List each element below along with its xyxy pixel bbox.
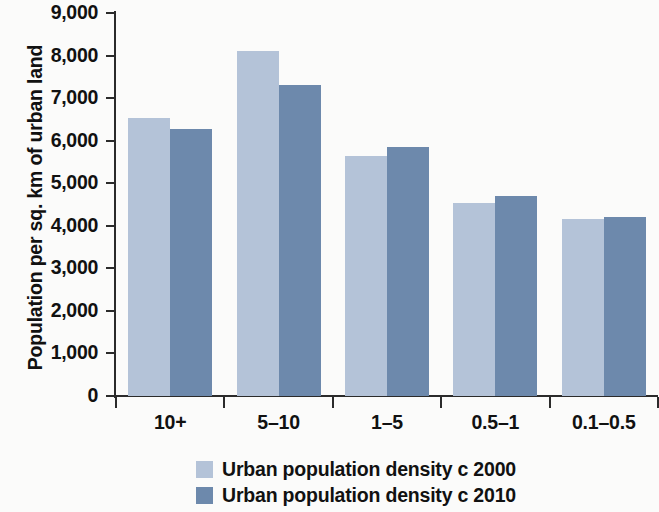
bar [387, 147, 429, 396]
bar [345, 156, 387, 396]
legend-item: Urban population density c 2000 [196, 456, 516, 482]
x-axis-tick [115, 397, 117, 408]
y-axis-tick: 5,000 [106, 182, 116, 184]
y-axis-tick: 3,000 [106, 267, 116, 269]
x-axis-category-label: 10+ [116, 411, 224, 434]
y-axis-tick-label: 7,000 [51, 86, 98, 109]
y-axis-tick: 6,000 [106, 140, 116, 142]
y-axis-tick-label: 9,000 [51, 1, 98, 24]
bar [562, 219, 604, 396]
y-axis-tick-label: 3,000 [51, 256, 98, 279]
x-axis-tick [332, 397, 334, 408]
legend-item-label: Urban population density c 2000 [222, 458, 516, 481]
x-axis-category-label: 0.1–0.5 [550, 411, 658, 434]
x-axis-tick [223, 397, 225, 408]
y-axis-tick: 4,000 [106, 225, 116, 227]
bar [279, 85, 321, 396]
y-axis-tick-label: 0 [87, 384, 98, 407]
bar [495, 196, 537, 396]
y-axis-tick: 9,000 [106, 12, 116, 14]
chart-legend: Urban population density c 2000Urban pop… [196, 456, 516, 508]
legend-item: Urban population density c 2010 [196, 482, 516, 508]
y-axis-tick-label: 1,000 [51, 341, 98, 364]
bar [237, 51, 279, 396]
bar [453, 203, 495, 396]
y-axis-tick-label: 5,000 [51, 171, 98, 194]
x-axis-category-label: 1–5 [333, 411, 441, 434]
x-axis-category-label: 5–10 [224, 411, 332, 434]
bar [604, 217, 646, 396]
legend-swatch-icon [196, 461, 213, 478]
x-axis-tick [549, 397, 551, 408]
y-axis-tick-label: 4,000 [51, 214, 98, 237]
bars-layer [116, 13, 658, 396]
y-axis-tick: 8,000 [106, 55, 116, 57]
x-axis-tick [440, 397, 442, 408]
bar [128, 118, 170, 396]
y-axis-tick-label: 6,000 [51, 129, 98, 152]
legend-item-label: Urban population density c 2010 [222, 484, 516, 507]
x-axis-category-label: 0.5–1 [441, 411, 549, 434]
y-axis-tick-label: 2,000 [51, 299, 98, 322]
y-axis-title: Population per sq. km of urban land [24, 13, 47, 403]
legend-swatch-icon [196, 487, 213, 504]
y-axis-tick-label: 8,000 [51, 44, 98, 67]
bar [170, 129, 212, 396]
y-axis-tick: 2,000 [106, 310, 116, 312]
y-axis-tick: 7,000 [106, 97, 116, 99]
y-axis-tick: 1,000 [106, 352, 116, 354]
